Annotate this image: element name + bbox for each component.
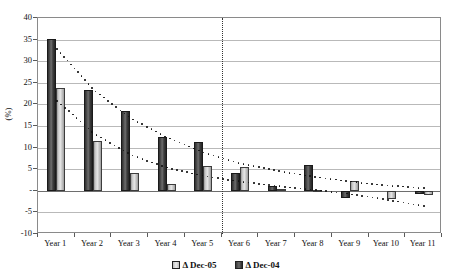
trend-dot [217, 177, 219, 179]
trend-dot [387, 185, 389, 187]
trend-dot [361, 182, 363, 184]
trend-dot [88, 83, 90, 85]
trend-dot [124, 113, 126, 115]
x-axis-label-year-1: Year 1 [37, 238, 74, 248]
trend-dot [227, 179, 229, 181]
trend-dot [127, 152, 129, 154]
trend-dot [188, 146, 190, 148]
trend-dot [141, 123, 143, 125]
x-axis-label-year-11: Year 11 [404, 238, 441, 248]
trend-dot [176, 169, 178, 171]
trend-dot [341, 192, 343, 194]
trend-curves-layer [38, 18, 442, 234]
trend-dot [223, 158, 225, 160]
trend-dot [142, 158, 144, 160]
trend-dot [114, 145, 116, 147]
trend-dot [392, 185, 394, 187]
trend-dot [248, 182, 250, 184]
trend-dot [320, 190, 322, 192]
trend-dot [376, 184, 378, 186]
y-axis-tick-label: 40 [0, 13, 32, 22]
trend-dot [164, 136, 166, 138]
trend-dot [377, 197, 379, 199]
trend-dot [346, 193, 348, 195]
trend-dot [238, 180, 240, 182]
trend-dot [274, 185, 276, 187]
trend-dot [268, 168, 270, 170]
trend-dot [56, 48, 58, 50]
legend-entry: Δ Dec-05 [172, 258, 217, 271]
trend-dot [356, 181, 358, 183]
trend-dot [166, 167, 168, 169]
trend-dot [310, 189, 312, 191]
trend-dot [155, 131, 157, 133]
x-axis-label-year-5: Year 5 [184, 238, 221, 248]
trend-dot [109, 142, 111, 144]
trend-dot [88, 128, 90, 130]
trend-dot [350, 181, 352, 183]
trend-dot [243, 181, 245, 183]
trend-dot [413, 187, 415, 189]
trend-dot [300, 188, 302, 190]
x-axis-tick-mark [110, 233, 111, 237]
trend-dot [351, 194, 353, 196]
trend-dot [218, 156, 220, 158]
trend-dot [120, 110, 122, 112]
trend-dot [169, 138, 171, 140]
trend-dot [232, 180, 234, 182]
trend-dot [284, 171, 286, 173]
legend-entry: Δ Dec-04 [235, 258, 280, 271]
trend-dot [243, 163, 245, 165]
trend-dot [253, 182, 255, 184]
trend-dot [123, 150, 125, 152]
x-axis-label-year-8: Year 8 [294, 238, 331, 248]
trend-dot [171, 168, 173, 170]
trend-dot [96, 134, 98, 136]
trend-dot [118, 147, 120, 149]
trend-dot [273, 169, 275, 171]
y-axis-tick-label: -10 [0, 229, 32, 238]
trend-dot [68, 110, 70, 112]
x-axis-tick-mark [184, 233, 185, 237]
trend-dot [203, 152, 205, 154]
x-axis-label-year-6: Year 6 [221, 238, 258, 248]
trend-dot [381, 184, 383, 186]
trend-dot [64, 107, 66, 109]
x-axis-tick-mark [404, 233, 405, 237]
trend-dot [137, 156, 139, 158]
trend-dot [278, 170, 280, 172]
x-axis-tick-mark [294, 233, 295, 237]
trend-dot [314, 176, 316, 178]
trend-dot [284, 186, 286, 188]
trend-dot [184, 144, 186, 146]
trend-dot [418, 187, 420, 189]
trend-dot [132, 119, 134, 121]
trend-dot [418, 204, 420, 206]
trend-dot [212, 177, 214, 179]
trend-dot [408, 203, 410, 205]
trend-dot [233, 161, 235, 163]
trend-dot [111, 103, 113, 105]
y-axis-tick-label: 25 [0, 78, 32, 87]
chart-legend: Δ Dec-05Δ Dec-04 [0, 258, 451, 271]
trend-dot [60, 104, 62, 106]
bar-chart: (%) 403530252015105--5-10 Year 1Year 2Ye… [0, 0, 451, 280]
y-axis-tick-label: 35 [0, 35, 32, 44]
trend-dot [289, 187, 291, 189]
trend-dot [331, 191, 333, 193]
trend-dot [198, 150, 200, 152]
x-axis-tick-mark [257, 233, 258, 237]
y-axis-tick-label: 20 [0, 99, 32, 108]
legend-label: Δ Dec-05 [183, 260, 217, 270]
trend-dot [81, 75, 83, 77]
trend-dot [356, 194, 358, 196]
trend-dot [367, 196, 369, 198]
x-axis-label-year-7: Year 7 [257, 238, 294, 248]
trend-dot [382, 198, 384, 200]
trend-dot [151, 162, 153, 164]
trend-dot [151, 128, 153, 130]
trend-dot [196, 174, 198, 176]
trend-dot [397, 201, 399, 203]
trend-dot [77, 71, 79, 73]
trend-dot [222, 178, 224, 180]
